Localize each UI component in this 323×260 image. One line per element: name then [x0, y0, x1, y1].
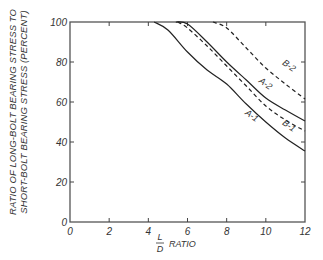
curve-label-b-1: B-1	[280, 117, 297, 133]
y-tick-label: 60	[56, 97, 68, 108]
curve-label-b-2: B-2	[280, 57, 297, 73]
x-tick-label: 12	[299, 226, 311, 237]
x-label-suffix: RATIO	[169, 239, 196, 249]
curve-labels: A-1A-2B-1B-2	[242, 57, 297, 133]
y-tick-label: 100	[50, 17, 67, 28]
x-tick-label: 8	[224, 226, 230, 237]
curve-label-a-1: A-1	[242, 107, 260, 124]
data-curves	[154, 22, 305, 151]
y-axis-label-line-2: SHORT-BOLT BEARING STRESS (PERCENT)	[18, 2, 29, 222]
y-axis-label: RATIO OF LONG-BOLT BEARING STRESS TO SHO…	[7, 2, 29, 222]
y-axis-label-line-1: RATIO OF LONG-BOLT BEARING STRESS TO	[7, 2, 18, 222]
x-label-denominator: D	[157, 244, 164, 254]
x-tick-label: 2	[105, 226, 112, 237]
y-tick-label: 80	[56, 57, 68, 68]
y-tick-label: 20	[55, 177, 68, 188]
chart: 024681012020406080100 A-1A-2B-1B-2 LDRAT…	[0, 0, 323, 260]
y-tick-label: 40	[56, 137, 68, 148]
x-tick-label: 6	[185, 226, 191, 237]
x-tick-label: 0	[67, 226, 73, 237]
x-tick-label: 10	[260, 226, 272, 237]
y-tick-label: 0	[61, 217, 67, 228]
curve-b-1	[178, 22, 305, 131]
x-tick-label: 4	[146, 226, 152, 237]
curve-a-2	[176, 22, 305, 121]
curve-label-a-2: A-2	[256, 75, 274, 92]
curve-a-1	[154, 22, 305, 151]
x-label-numerator: L	[157, 232, 162, 242]
